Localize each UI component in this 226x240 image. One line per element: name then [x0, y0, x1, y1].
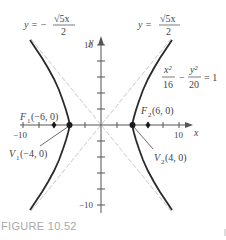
svg-text:2: 2	[166, 26, 171, 37]
vertex-v2	[130, 122, 136, 128]
svg-text:2: 2	[61, 26, 66, 37]
svg-text:F: F	[140, 105, 148, 116]
vertex-v1	[67, 122, 73, 128]
label-f2: F 2 (6, 0)	[140, 105, 174, 119]
y-tick-10: 10	[84, 40, 94, 50]
label-v1: V 1 (−4, 0)	[9, 148, 47, 162]
svg-text:= 1: = 1	[204, 72, 217, 83]
focus-f2	[146, 122, 151, 129]
svg-text:16: 16	[163, 79, 173, 90]
hyperbola-figure: y x 10 −10 −10 10 y = − √5x 2 y = √5x 2 …	[0, 0, 226, 240]
focus-f1	[52, 122, 57, 129]
svg-text:(−6, 0): (−6, 0)	[31, 111, 58, 123]
svg-text:x²: x²	[163, 64, 172, 75]
figure-caption: FIGURE 10.52	[1, 220, 77, 232]
svg-text:(4, 0): (4, 0)	[165, 152, 187, 164]
svg-text:y²: y²	[189, 64, 198, 75]
y-axis-arrow-icon	[98, 36, 104, 45]
svg-text:y =: y =	[137, 19, 152, 30]
equation-hyperbola: x² 16 − y² 20 = 1	[162, 64, 217, 90]
svg-text:(−4, 0): (−4, 0)	[20, 148, 47, 160]
svg-text:√5x: √5x	[54, 13, 70, 24]
svg-text:F: F	[19, 111, 27, 122]
svg-text:−: −	[179, 72, 185, 83]
x-tick-neg10: −10	[13, 130, 28, 140]
x-axis-arrow-icon	[185, 122, 193, 128]
equation-asymptote-right: y = √5x 2	[137, 13, 180, 37]
x-axis-label: x	[193, 127, 199, 138]
equation-asymptote-left: y = − √5x 2	[23, 13, 75, 37]
page-edge-mark	[224, 229, 226, 236]
label-v2: V 2 (4, 0)	[154, 152, 187, 166]
svg-text:20: 20	[189, 79, 199, 90]
svg-text:√5x: √5x	[160, 13, 176, 24]
x-tick-10: 10	[174, 130, 184, 140]
svg-text:y = −: y = −	[23, 19, 47, 30]
y-tick-neg10: −10	[79, 200, 94, 210]
svg-text:(6, 0): (6, 0)	[152, 105, 174, 117]
